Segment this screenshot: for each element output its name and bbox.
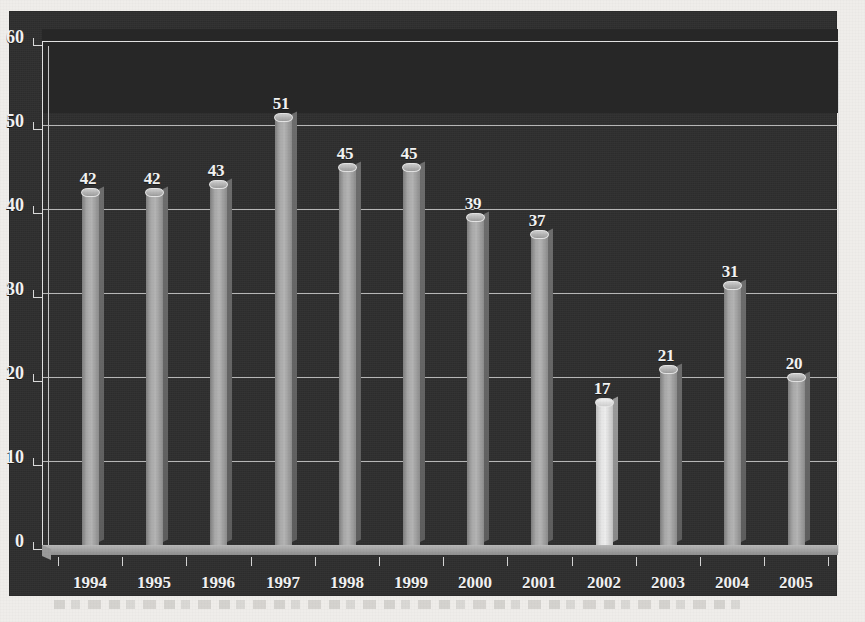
bar-cap-2002 [595, 398, 614, 407]
ytick-10 [33, 465, 42, 466]
bar-1997[interactable] [275, 117, 292, 545]
bar-side-2002 [613, 397, 618, 542]
bar-value-label-2005: 20 [779, 355, 809, 372]
x-axis-tick-2004 [700, 557, 701, 566]
bar-side-1997 [292, 112, 297, 542]
x-axis-label-2002: 2002 [572, 574, 636, 591]
bar-value-label-1997: 51 [266, 95, 296, 112]
bar-2000[interactable] [467, 217, 484, 545]
bar-1995[interactable] [146, 192, 163, 545]
x-axis-label-1995: 1995 [122, 574, 186, 591]
x-axis-tick-2005 [764, 557, 765, 566]
bar-2001[interactable] [531, 234, 548, 545]
bar-value-label-1994: 42 [73, 170, 103, 187]
x-axis-tick-end [828, 557, 829, 566]
bar-cap-1999 [402, 163, 421, 172]
bar-value-label-1998: 45 [330, 145, 360, 162]
x-axis-tick-1994 [58, 557, 59, 566]
bar-2003[interactable] [660, 369, 677, 545]
x-axis-label-1999: 1999 [379, 574, 443, 591]
bar-side-2004 [741, 280, 746, 542]
ytick-60 [33, 45, 42, 46]
x-axis-label-1997: 1997 [251, 574, 315, 591]
x-axis-tick-2002 [572, 557, 573, 566]
ytick-50 [33, 129, 42, 130]
y-axis-label-30: 30 [0, 280, 24, 298]
bar-side-2000 [484, 212, 489, 542]
bar-cap-1998 [338, 163, 357, 172]
ytick-stub-10 [33, 458, 34, 465]
x-axis-tick-1995 [122, 557, 123, 566]
bar-value-label-1995: 42 [137, 170, 167, 187]
bar-side-2003 [677, 364, 682, 542]
chart-panel: 0102030405060421994421995431996511997451… [10, 12, 836, 595]
bar-cap-2005 [787, 373, 806, 382]
bar-cap-1997 [274, 113, 293, 122]
ytick-0 [33, 549, 42, 550]
bar-side-2005 [805, 372, 810, 542]
bar-value-label-2000: 39 [458, 195, 488, 212]
gridline-50 [42, 125, 838, 126]
bar-2002[interactable] [596, 402, 613, 545]
bar-side-1994 [99, 187, 104, 542]
x-axis-label-1994: 1994 [58, 574, 122, 591]
bar-1994[interactable] [82, 192, 99, 545]
bar-side-1995 [163, 187, 168, 542]
ytick-30 [33, 297, 42, 298]
page-bleed-text-line [54, 600, 744, 609]
bar-1998[interactable] [339, 167, 356, 545]
y-axis-label-60: 60 [0, 28, 24, 46]
bar-cap-2000 [466, 213, 485, 222]
bar-cap-2004 [723, 281, 742, 290]
bar-side-1998 [356, 162, 361, 542]
y-axis-label-50: 50 [0, 112, 24, 130]
y-axis-label-0: 0 [0, 532, 24, 550]
bar-value-label-1996: 43 [201, 162, 231, 179]
plot-frame-left-inner [48, 46, 49, 550]
x-axis-tick-1999 [379, 557, 380, 566]
plot-area: 0102030405060421994421995431996511997451… [10, 12, 836, 595]
x-axis-label-2005: 2005 [764, 574, 828, 591]
x-axis-tick-1998 [315, 557, 316, 566]
x-axis-tick-2001 [507, 557, 508, 566]
ytick-stub-20 [33, 374, 34, 381]
ytick-stub-30 [33, 290, 34, 297]
bar-cap-1996 [209, 180, 228, 189]
bar-value-label-2001: 37 [522, 212, 552, 229]
x-axis-label-1996: 1996 [186, 574, 250, 591]
plot-frame-top [42, 41, 838, 42]
x-axis-label-2001: 2001 [507, 574, 571, 591]
bar-2005[interactable] [788, 377, 805, 545]
bar-value-label-2003: 21 [651, 347, 681, 364]
bar-value-label-1999: 45 [394, 145, 424, 162]
x-axis-tick-1997 [251, 557, 252, 566]
plot-frame-left [42, 41, 43, 547]
scanned-page: 0102030405060421994421995431996511997451… [0, 0, 865, 622]
x-axis-label-1998: 1998 [315, 574, 379, 591]
ytick-stub-0 [33, 542, 34, 549]
y-axis-label-10: 10 [0, 448, 24, 466]
bar-cap-1995 [145, 188, 164, 197]
plot-frame-right [838, 41, 839, 553]
bar-cap-1994 [81, 188, 100, 197]
x-axis-tick-2000 [443, 557, 444, 566]
bar-cap-2001 [530, 230, 549, 239]
bar-1996[interactable] [210, 184, 227, 545]
bar-1999[interactable] [403, 167, 420, 545]
x-axis-tick-2003 [636, 557, 637, 566]
bar-2004[interactable] [724, 285, 741, 545]
ytick-stub-50 [33, 122, 34, 129]
bar-cap-2003 [659, 365, 678, 374]
ytick-stub-60 [33, 38, 34, 45]
bar-side-2001 [548, 229, 553, 542]
bar-side-1996 [227, 179, 232, 542]
plot-floor [42, 545, 838, 555]
ytick-40 [33, 213, 42, 214]
x-axis-tick-1996 [186, 557, 187, 566]
bar-value-label-2004: 31 [715, 263, 745, 280]
ytick-stub-40 [33, 206, 34, 213]
y-axis-label-20: 20 [0, 364, 24, 382]
bar-value-label-2002: 17 [587, 380, 617, 397]
x-axis-label-2004: 2004 [700, 574, 764, 591]
x-axis-label-2000: 2000 [443, 574, 507, 591]
